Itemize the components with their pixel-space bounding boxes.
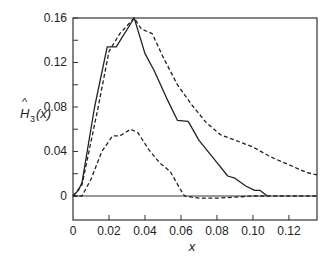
y-tick-label: 0.16: [44, 11, 68, 25]
x-tick-label: 0: [70, 224, 77, 238]
series-line-2: [73, 129, 317, 198]
series-group: [73, 18, 317, 198]
y-tick-label: 0.12: [44, 55, 68, 69]
x-axis-ticks: 00.020.040.060.080.100.12: [70, 215, 301, 238]
y-axis-label-sub: 3: [30, 114, 35, 124]
x-axis-label: x: [188, 239, 196, 254]
y-axis-label-arg: (x): [36, 106, 51, 121]
x-tick-label: 0.04: [133, 224, 157, 238]
plot-frame: [73, 18, 317, 220]
x-tick-label: 0.10: [241, 224, 265, 238]
series-line-0: [73, 18, 267, 196]
y-tick-label: 0: [60, 189, 67, 203]
plot-border: [73, 18, 317, 220]
y-axis-label-main: H: [20, 106, 30, 121]
y-tick-label: 0.04: [44, 144, 68, 158]
series-line-1: [73, 18, 317, 196]
x-tick-label: 0.08: [205, 224, 229, 238]
chart: 00.020.040.060.080.100.12 00.040.080.120…: [0, 0, 331, 256]
x-tick-label: 0.12: [277, 224, 301, 238]
x-tick-label: 0.06: [169, 224, 193, 238]
x-tick-label: 0.02: [97, 224, 121, 238]
